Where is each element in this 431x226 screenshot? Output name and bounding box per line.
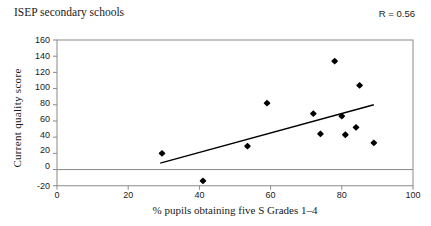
y-tick-label: 160 (18, 35, 50, 45)
plot-frame (57, 40, 413, 186)
x-axis-title: % pupils obtaining five S Grades 1–4 (57, 204, 413, 216)
chart-figure: ISEP secondary schools R = 0.56 160 140 … (0, 0, 431, 226)
data-point (331, 58, 338, 65)
y-tick-label: -20 (18, 181, 50, 191)
x-tick-label: 80 (337, 190, 347, 200)
data-point (317, 131, 324, 138)
y-axis-title: Current quality score (11, 63, 23, 173)
x-tick-label: 20 (123, 190, 133, 200)
data-point (244, 143, 251, 150)
data-point (353, 124, 360, 131)
x-tick-label: 100 (405, 190, 420, 200)
data-point (356, 82, 363, 89)
data-point (264, 100, 271, 107)
data-point (370, 139, 377, 146)
plot-area: 160 140 120 100 80 60 40 20 0 -20 0 20 4… (0, 0, 431, 226)
x-tick-label: 40 (194, 190, 204, 200)
x-tick-label: 0 (54, 190, 59, 200)
data-point (200, 177, 207, 184)
data-point (159, 150, 166, 157)
data-point (310, 110, 317, 117)
data-point (342, 131, 349, 138)
x-tick-label: 60 (266, 190, 276, 200)
y-tick-label: 140 (18, 51, 50, 61)
plot-svg (0, 0, 431, 226)
